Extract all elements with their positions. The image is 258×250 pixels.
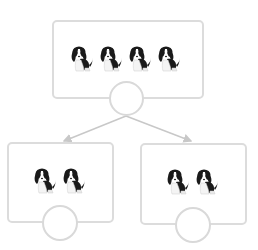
dog-icon (196, 169, 219, 196)
left-child-answer-circle[interactable] (42, 205, 78, 241)
arrow-left (64, 116, 126, 141)
dog-icon (34, 168, 57, 195)
dog-icon (71, 46, 94, 73)
dog-icon (63, 168, 86, 195)
dog-icon (158, 46, 181, 73)
dog-icon (129, 46, 152, 73)
parent-answer-circle[interactable] (109, 81, 144, 116)
dog-icon (100, 46, 123, 73)
dog-icon (167, 169, 190, 196)
arrow-right (126, 116, 191, 141)
right-child-answer-circle[interactable] (175, 207, 211, 243)
division-tree-diagram (0, 0, 258, 250)
